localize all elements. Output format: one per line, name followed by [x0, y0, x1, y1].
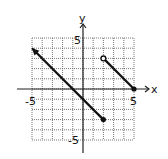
closed-point-icon — [101, 117, 106, 122]
y-max-tick-label: 5 — [74, 34, 81, 47]
ray-line — [32, 48, 103, 119]
segment-line — [103, 58, 134, 89]
y-axis-label: y — [79, 12, 86, 25]
open-point-icon — [101, 56, 106, 61]
x-axis-label: x — [151, 83, 158, 96]
axes — [17, 24, 149, 153]
coordinate-plane: x y -5 5 5 -5 — [0, 0, 168, 159]
x-min-tick-label: -5 — [25, 95, 36, 108]
closed-point-icon — [131, 86, 136, 91]
x-max-tick-label: 5 — [130, 95, 137, 108]
plotted-lines — [32, 48, 137, 122]
y-min-tick-label: -5 — [68, 134, 79, 147]
